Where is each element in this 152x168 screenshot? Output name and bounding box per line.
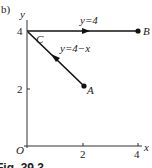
- point-a-marker: [81, 83, 86, 88]
- path-diagram: b) y x O 2 4 2 4 y=4 y=4−x B A C Fig. 39…: [0, 0, 152, 168]
- y-tick-label-4: 4: [17, 25, 23, 37]
- path-c-to-b-label: y=4: [79, 14, 98, 26]
- point-b-label: B: [143, 25, 150, 37]
- origin-label: O: [16, 144, 24, 156]
- point-c-label: C: [36, 33, 44, 45]
- point-a-label: A: [86, 84, 94, 96]
- point-b-marker: [135, 28, 140, 33]
- x-axis-label: x: [143, 141, 149, 153]
- x-tick-label-2: 2: [80, 148, 86, 160]
- part-label: b): [1, 3, 11, 16]
- x-tick-label-4: 4: [134, 148, 140, 160]
- y-tick-label-2: 2: [17, 83, 23, 95]
- arrow-right-icon: [82, 28, 90, 34]
- path-a-to-c-label: y=4−x: [59, 42, 90, 54]
- y-axis-label: y: [19, 8, 25, 20]
- figure-caption: Fig. 39.3: [0, 161, 44, 168]
